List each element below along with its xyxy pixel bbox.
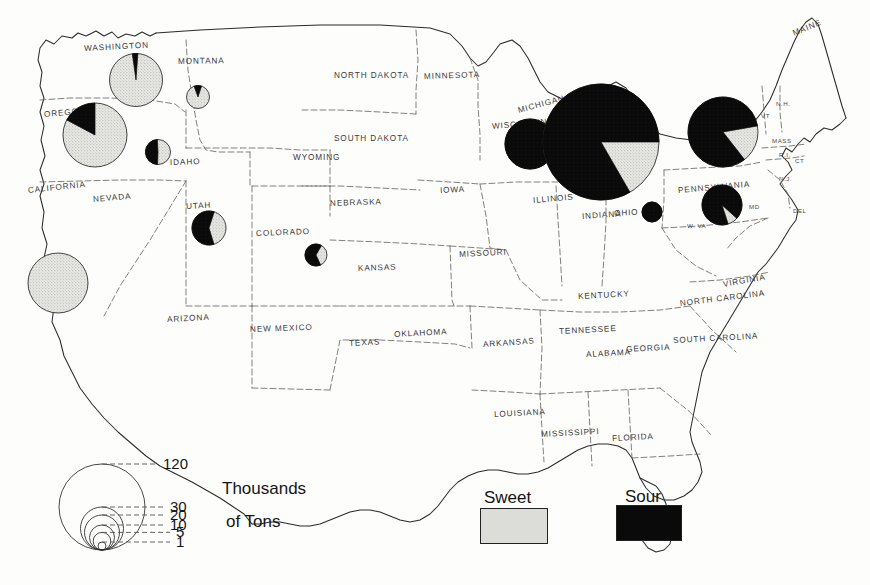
units-label-line1: Thousands: [222, 479, 306, 499]
key-label-sweet: Sweet: [484, 488, 531, 508]
key-label-sour: Sour: [625, 487, 661, 507]
legend-circle-1: [98, 542, 106, 550]
legend-circle-30: [81, 507, 124, 550]
units-label-line2: of Tons: [226, 512, 281, 532]
legend-value-120: 120: [163, 455, 188, 472]
size-legend-layer: [0, 0, 870, 585]
key-swatch-sweet: [480, 508, 548, 544]
key-swatch-sour: [616, 505, 682, 541]
legend-circle-10: [90, 525, 115, 550]
map-container: WASHINGTONMONTANANORTH DAKOTAMINNESOTAMA…: [0, 0, 870, 585]
legend-value-1: 1: [176, 533, 184, 550]
legend-circle-5: [93, 532, 111, 550]
